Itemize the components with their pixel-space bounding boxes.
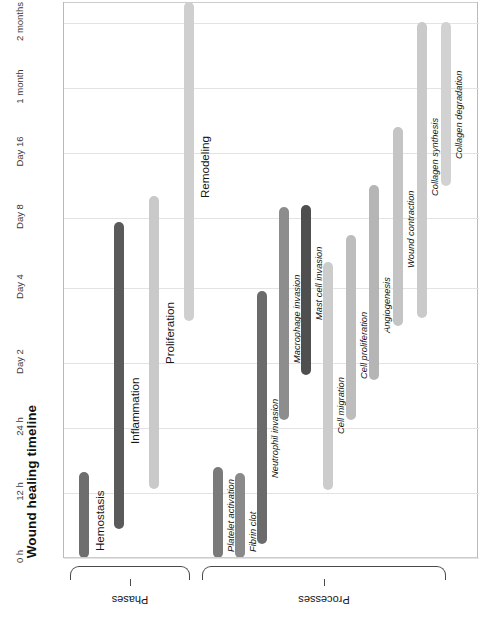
gridline — [64, 558, 479, 559]
bar-label: Hemostasis — [93, 490, 106, 551]
page-title: Wound healing timeline — [24, 387, 39, 577]
group-bracket — [202, 566, 446, 582]
group-label: Phases — [70, 594, 190, 606]
timeline-bar[interactable] — [149, 196, 159, 489]
group-label: Processes — [264, 594, 384, 606]
bar-label: Angiogenesis — [382, 277, 392, 333]
axis-tick-7: 1 month — [14, 52, 25, 122]
timeline-bar[interactable] — [301, 205, 311, 375]
timeline-bar[interactable] — [417, 22, 427, 318]
axis-tick-8: 2 months — [14, 0, 25, 57]
gridline — [64, 493, 479, 494]
timeline-bar[interactable] — [441, 22, 451, 186]
axis-tick-1: 12 h — [14, 457, 25, 527]
axis-tick-6: Day 16 — [14, 117, 25, 187]
timeline-bar[interactable] — [184, 2, 194, 321]
axis-tick-3: Day 2 — [14, 327, 25, 397]
timeline-bar[interactable] — [323, 262, 333, 490]
bar-label: Collagen synthesis — [430, 118, 440, 196]
axis-tick-5: Day 8 — [14, 182, 25, 252]
bar-label: Cell migration — [336, 377, 346, 434]
timeline-bar[interactable] — [257, 291, 267, 544]
timeline-bar[interactable] — [235, 473, 245, 558]
timeline-bar[interactable] — [279, 207, 289, 420]
axis-tick-4: Day 4 — [14, 252, 25, 322]
chart-canvas: Wound healing timeline HemostasisInflamm… — [0, 0, 486, 623]
group-bracket — [70, 566, 190, 582]
bar-label: Inflammation — [128, 378, 141, 444]
timeline-bar[interactable] — [79, 472, 89, 558]
axis-tick-0: 0 h — [14, 522, 25, 592]
bar-label: Cell proliferation — [359, 312, 369, 379]
timeline-bar[interactable] — [369, 185, 379, 380]
bar-label: Wound contraction — [406, 190, 416, 268]
plot-area: HemostasisInflammationProliferationRemod… — [63, 2, 478, 558]
gridline — [64, 363, 479, 364]
bar-label: Collagen degradation — [454, 71, 464, 159]
timeline-bar[interactable] — [213, 467, 223, 558]
timeline-bar[interactable] — [114, 222, 124, 529]
bar-label: Proliferation — [163, 302, 176, 364]
bar-label: Remodeling — [198, 136, 211, 198]
timeline-bar[interactable] — [393, 127, 403, 326]
axis-tick-2: 24 h — [14, 392, 25, 462]
timeline-bar[interactable] — [346, 235, 356, 420]
